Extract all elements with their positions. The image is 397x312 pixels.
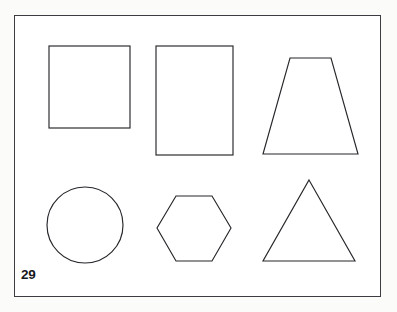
content-frame-border [14,15,381,297]
page-number: 29 [21,268,36,282]
worksheet-page: 29 [0,0,397,312]
